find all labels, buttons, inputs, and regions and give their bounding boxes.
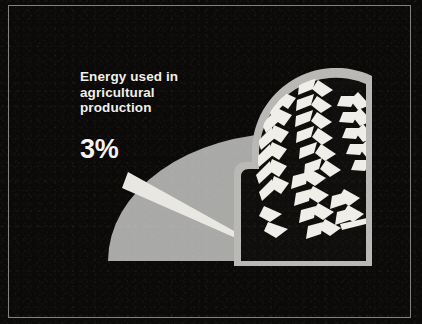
headline-line-3: production (80, 100, 152, 115)
caption-block: Energy used inagriculturalproduction 3% (80, 69, 230, 163)
percent-value: 3% (80, 136, 230, 163)
slide-canvas: Energy used inagriculturalproduction 3% (0, 0, 422, 324)
page-title: Energy used inagriculturalproduction (80, 69, 230, 116)
headline-line-2: agricultural (80, 85, 155, 100)
headline-line-1: Energy used in (80, 69, 178, 84)
